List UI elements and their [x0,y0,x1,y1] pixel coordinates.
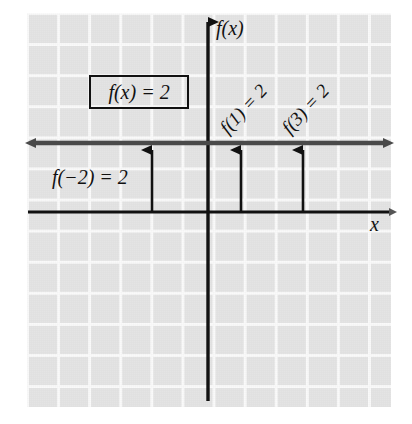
boxed-equation-label: f(x) = 2 [89,75,189,109]
x-axis-label: x [370,214,379,234]
paper-grain-texture [27,13,391,407]
annotation-label-f-neg2: f(−2) = 2 [52,167,128,187]
y-axis-label: f(x) [216,18,244,38]
function-graph-figure: f(x) x f(x) = 2 f(−2) = 2 f(1) = 2 f(3) … [0,0,412,424]
plot-grid-area [27,13,391,407]
